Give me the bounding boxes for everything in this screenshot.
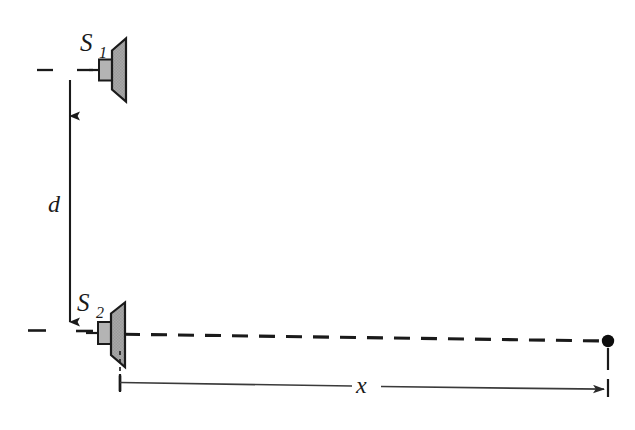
reference-line-s2-left — [28, 331, 93, 332]
observation-point-dot — [602, 335, 614, 347]
source-2-symbol: S — [77, 289, 90, 316]
source-1-subscript: 1 — [99, 44, 107, 61]
source-2-subscript: 2 — [96, 304, 104, 321]
source-2-label: S 2 — [77, 289, 104, 321]
diagram-canvas: S 1 d S 2 — [0, 0, 635, 430]
source-1-symbol: S — [80, 29, 93, 56]
propagation-dashed-line — [124, 334, 605, 341]
speaker-interference-diagram: S 1 d S 2 — [0, 0, 635, 430]
source-1-label: S 1 — [80, 29, 107, 61]
separation-label: d — [48, 191, 61, 217]
distance-label: x — [355, 372, 367, 398]
speaker-s1 — [89, 39, 126, 102]
speaker-s2 — [86, 303, 125, 368]
